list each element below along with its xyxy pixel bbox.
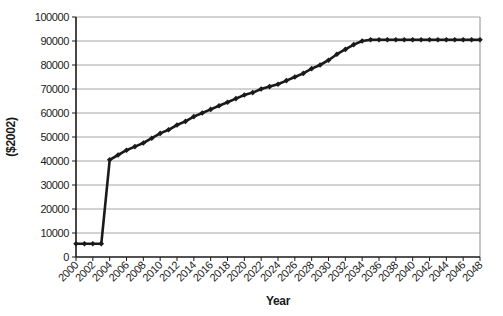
line-chart: 0100002000030000400005000060000700008000… — [0, 0, 503, 316]
x-axis-title: Year — [266, 294, 291, 308]
y-tick-label: 20000 — [40, 203, 69, 215]
data-point-marker — [401, 37, 407, 43]
data-point-marker — [376, 37, 382, 43]
data-point-marker — [460, 37, 466, 43]
data-point-marker — [393, 37, 399, 43]
y-tick-label: 90000 — [40, 35, 69, 47]
y-tick-label: 50000 — [40, 131, 69, 143]
y-tick-label: 40000 — [40, 155, 69, 167]
data-point-marker — [452, 37, 458, 43]
x-tick-labels: 2000200220042006200820102012201420162018… — [56, 259, 485, 284]
chart-figure: 0100002000030000400005000060000700008000… — [0, 0, 503, 316]
gridlines — [76, 17, 480, 257]
data-series — [73, 37, 483, 247]
y-tick-label: 30000 — [40, 179, 69, 191]
axes — [72, 17, 480, 261]
data-point-marker — [368, 37, 374, 43]
y-tick-label: 60000 — [40, 107, 69, 119]
data-point-marker — [98, 241, 104, 247]
y-axis-title: ($2002) — [4, 117, 18, 157]
y-tick-label: 10000 — [40, 227, 69, 239]
x-tick-label: 2048 — [460, 259, 485, 284]
data-point-marker — [82, 241, 88, 247]
data-point-marker — [418, 37, 424, 43]
data-point-marker — [444, 37, 450, 43]
data-point-marker — [427, 37, 433, 43]
data-point-marker — [477, 37, 483, 43]
y-tick-label: 80000 — [40, 59, 69, 71]
data-point-marker — [90, 241, 96, 247]
data-point-marker — [435, 37, 441, 43]
data-point-marker — [73, 241, 79, 247]
data-point-marker — [410, 37, 416, 43]
y-tick-label: 100000 — [35, 11, 70, 23]
data-point-marker — [469, 37, 475, 43]
series-line — [76, 40, 480, 244]
data-point-marker — [385, 37, 391, 43]
y-tick-label: 70000 — [40, 83, 69, 95]
y-tick-labels: 0100002000030000400005000060000700008000… — [35, 11, 70, 263]
